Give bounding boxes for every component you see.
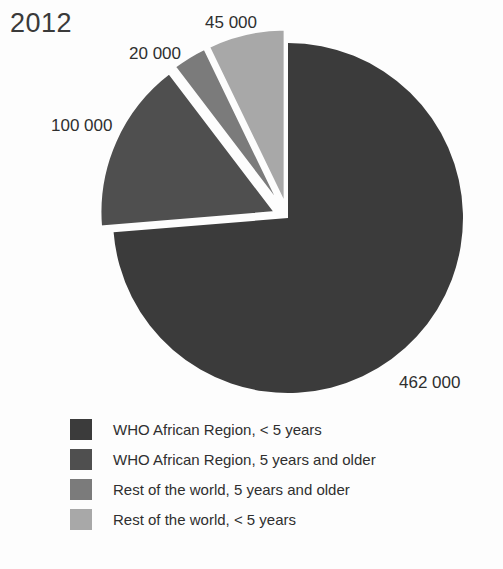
legend-swatch-icon <box>70 479 92 500</box>
legend-swatch-icon <box>70 449 92 470</box>
pie-chart: 462 000 100 000 20 000 45 000 <box>0 0 503 405</box>
legend-swatch-icon <box>70 509 92 530</box>
slice-value-label-45000: 45 000 <box>205 13 257 32</box>
pie-chart-svg <box>0 0 503 405</box>
slice-value-label-20000: 20 000 <box>129 44 181 63</box>
legend-item: Rest of the world, < 5 years <box>70 504 490 534</box>
legend-item: WHO African Region, 5 years and older <box>70 444 490 474</box>
chart-legend: WHO African Region, < 5 years WHO Africa… <box>70 414 490 534</box>
legend-swatch-icon <box>70 419 92 440</box>
slice-value-label-462000: 462 000 <box>399 373 460 392</box>
chart-page: 2012 462 000 100 000 20 000 45 000 WHO A… <box>0 0 503 569</box>
legend-item: WHO African Region, < 5 years <box>70 414 490 444</box>
legend-item-label: WHO African Region, < 5 years <box>113 421 322 438</box>
legend-item: Rest of the world, 5 years and older <box>70 474 490 504</box>
slice-value-label-100000: 100 000 <box>51 116 112 135</box>
legend-item-label: Rest of the world, < 5 years <box>113 511 296 528</box>
legend-item-label: Rest of the world, 5 years and older <box>113 481 350 498</box>
pie-slice-group <box>100 29 463 393</box>
legend-item-label: WHO African Region, 5 years and older <box>113 451 376 468</box>
